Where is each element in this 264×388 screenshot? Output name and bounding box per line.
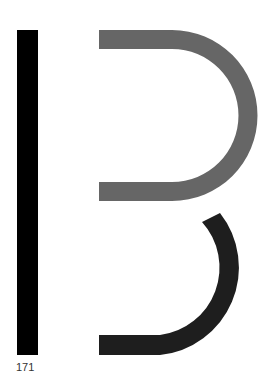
lower-bowl-shape (99, 213, 239, 355)
letter-b-construction (0, 0, 264, 388)
upper-bowl-shape (99, 30, 258, 201)
vertical-stem-bar (17, 30, 38, 355)
figure-number-label: 171 (16, 361, 34, 373)
